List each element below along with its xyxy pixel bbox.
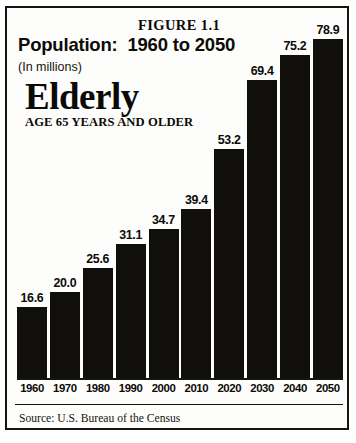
bar-column: 16.6 [17,22,47,378]
source-divider [15,404,343,405]
bar-column: 39.4 [181,22,211,378]
bar-rect [83,268,113,378]
bar-rect [247,80,277,378]
x-axis-line [17,378,343,380]
x-axis-tick-label: 2030 [247,382,277,394]
bar-value-label: 20.0 [53,276,76,290]
bar-value-label: 39.4 [185,193,208,207]
chart-plot-area: 16.620.025.631.134.739.453.269.475.278.9 [17,22,343,378]
x-axis-tick-label: 1990 [116,382,146,394]
figure-page: FIGURE 1.1 Population: 1960 to 2050 (In … [0,0,356,443]
x-axis-tick-label: 1970 [50,382,80,394]
bar-column: 53.2 [214,22,244,378]
bar-value-label: 75.2 [284,39,307,53]
bar-rect [50,292,80,378]
x-axis-tick-labels: 1960197019801990200020102020203020402050 [17,382,343,394]
bar-value-label: 31.1 [119,228,142,242]
bar-rect [280,55,310,378]
figure-frame: FIGURE 1.1 Population: 1960 to 2050 (In … [5,6,349,430]
x-axis-tick-label: 1960 [17,382,47,394]
bar-value-label: 69.4 [251,64,274,78]
x-axis-tick-label: 2010 [181,382,211,394]
bar-value-label: 34.7 [152,213,175,227]
bar-column: 75.2 [280,22,310,378]
bar-value-label: 78.9 [316,23,339,37]
bar-column: 69.4 [247,22,277,378]
bar-value-label: 16.6 [21,291,44,305]
bar-column: 78.9 [313,22,343,378]
bar-value-label: 25.6 [86,252,109,266]
bar-rect [181,209,211,378]
bar-column: 20.0 [50,22,80,378]
source-note: Source: U.S. Bureau of the Census [19,412,180,425]
bar-rect [17,307,47,378]
bar-column: 25.6 [83,22,113,378]
bar-rect [116,244,146,378]
x-axis-tick-label: 2040 [280,382,310,394]
bar-column: 34.7 [149,22,179,378]
x-axis-tick-label: 2050 [313,382,343,394]
bar-column: 31.1 [116,22,146,378]
x-axis-tick-label: 2000 [149,382,179,394]
bar-rect [313,39,343,378]
bar-series: 16.620.025.631.134.739.453.269.475.278.9 [17,22,343,378]
bar-rect [214,149,244,378]
bar-value-label: 53.2 [218,133,241,147]
bar-rect [149,229,179,378]
x-axis-tick-label: 2020 [214,382,244,394]
x-axis-tick-label: 1980 [83,382,113,394]
